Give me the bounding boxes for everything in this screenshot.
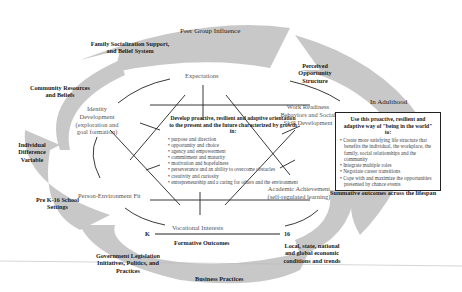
local-state-label: Local, state, national and global econom… [282,242,342,264]
adulthood-item: • Create more satisfying life structure … [340,137,436,162]
adulthood-list: • Create more satisfying life structure … [340,137,436,187]
timeline-start: K [145,230,150,237]
center-item: • entrepreneurship and a caring for othe… [168,179,298,185]
perceived-opportunity-label: Perceived Opportunity Structure [285,62,345,84]
individual-difference-label: Individual Difference Variable [12,141,52,163]
community-label: Community Resources and Beliefs [25,84,95,99]
business-label: Business Practices [195,275,243,282]
summative-outcomes-label: Summative outcomes across the lifespan [330,189,436,196]
adulthood-box: Use this proactive, resilient and adapti… [335,112,441,191]
formative-outcomes-label: Formative Outcomes [174,239,230,246]
peer-group-label: Peer Group Influence [180,27,240,35]
pre-k16-label: Pre K-16 School Settings [35,196,80,211]
node-academic: Academic Achievement (self-regulated lea… [266,185,332,201]
adulthood-heading: Use this proactive, resilient and adapti… [340,116,436,136]
in-adulthood-label: In Adulthood [370,98,407,106]
center-growth-block: Develop proactive, resilient and adaptiv… [168,115,298,185]
node-person-environment: Person-Environment Fit [78,192,141,200]
timeline-end: 16 [284,230,290,237]
center-list: • purpose and direction • opportunity an… [168,136,298,185]
node-expectations: Expectations [185,72,219,80]
node-vocational: Vocational Interests [172,224,223,232]
family-label: Family Socialization Support, and Belief… [90,40,170,55]
center-heading: Develop proactive, resilient and adaptiv… [168,115,298,135]
adulthood-item: • Cope with and maximize the opportuniti… [340,175,436,187]
node-identity: Identity Development (exploration and go… [72,105,122,136]
government-label: Government Legislation Initiatives, Poli… [93,252,163,274]
